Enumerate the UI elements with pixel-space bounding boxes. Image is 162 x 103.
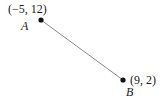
point-a-dot — [38, 17, 43, 22]
point-b-coords: (9, 2) — [130, 74, 156, 86]
segment-ab — [41, 20, 123, 80]
point-b-dot — [120, 77, 125, 82]
point-a-coords: (−5, 12) — [8, 3, 47, 15]
point-a-label: A — [21, 20, 28, 32]
point-b-label: B — [126, 86, 133, 98]
